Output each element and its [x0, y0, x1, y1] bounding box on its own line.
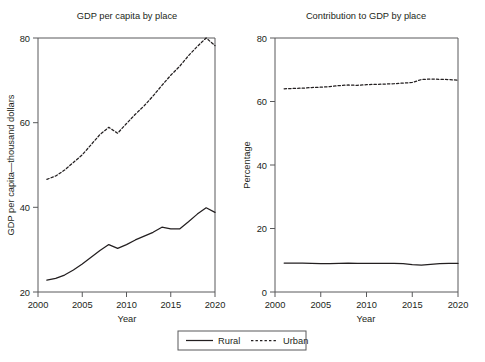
y-tick-40: 40 [20, 203, 38, 213]
legend-label-rural: Rural [218, 336, 240, 346]
series-line-urban-right [284, 79, 458, 89]
y-axis-title-left: GDP per capita—thousand dollars [6, 94, 16, 235]
x-tick-2010: 2010 [116, 292, 137, 310]
x-tick-label: 2005 [310, 300, 331, 310]
legend: Rural Urban [178, 331, 308, 350]
x-tick-label: 2010 [356, 300, 377, 310]
x-tick-2020: 2020 [448, 292, 469, 310]
y-axis-title-right: Percentage [242, 141, 252, 189]
panel-gdp-per-capita: GDP per capita by place 80 60 40 [6, 11, 225, 324]
x-tick-2000: 2000 [28, 292, 49, 310]
x-tick-label: 2010 [116, 300, 137, 310]
panel-title-right: Contribution to GDP by place [306, 11, 426, 21]
y-axis-right: 80 60 40 20 0 Percentage [242, 34, 275, 298]
plot-frame-right [275, 38, 458, 292]
y-tick-label: 20 [257, 224, 267, 234]
y-tick-0: 0 [262, 288, 275, 298]
y-tick-label: 80 [20, 34, 30, 44]
legend-label-urban: Urban [283, 336, 308, 346]
y-tick-40: 40 [257, 161, 275, 171]
y-tick-label: 60 [20, 118, 30, 128]
y-tick-label: 40 [257, 161, 267, 171]
y-tick-20: 20 [257, 224, 275, 234]
x-axis-title-left: Year [118, 314, 137, 324]
y-tick-20: 20 [20, 288, 38, 298]
x-tick-2000: 2000 [265, 292, 286, 310]
y-axis-left: 80 60 40 20 GDP per capita—thousand doll… [6, 34, 38, 298]
plot-spines-right [275, 38, 458, 292]
x-tick-label: 2020 [205, 300, 226, 310]
x-tick-label: 2020 [448, 300, 469, 310]
y-tick-label: 0 [262, 288, 267, 298]
x-tick-label: 2015 [402, 300, 423, 310]
figure-canvas: GDP per capita by place 80 60 40 [0, 0, 485, 362]
x-axis-right: 2000 2005 2010 2015 2020 Ye [265, 292, 469, 324]
plot-spines-left [38, 38, 215, 292]
y-tick-80: 80 [257, 34, 275, 44]
x-axis-title-right: Year [357, 314, 376, 324]
y-tick-label: 20 [20, 288, 30, 298]
y-tick-80: 80 [20, 34, 38, 44]
chart-svg: GDP per capita by place 80 60 40 [0, 0, 485, 362]
x-tick-2010: 2010 [356, 292, 377, 310]
x-tick-2020: 2020 [205, 292, 226, 310]
x-tick-label: 2015 [160, 300, 181, 310]
y-tick-60: 60 [257, 97, 275, 107]
x-tick-2015: 2015 [402, 292, 423, 310]
y-tick-label: 80 [257, 34, 267, 44]
series-line-rural-left [47, 208, 215, 280]
x-tick-label: 2000 [265, 300, 286, 310]
x-axis-left: 2000 2005 2010 2015 2020 Ye [28, 292, 226, 324]
x-tick-2015: 2015 [160, 292, 181, 310]
y-tick-label: 40 [20, 203, 30, 213]
y-tick-label: 60 [257, 97, 267, 107]
x-tick-2005: 2005 [72, 292, 93, 310]
plot-frame-left [38, 38, 215, 292]
x-tick-label: 2000 [28, 300, 49, 310]
panel-title-left: GDP per capita by place [77, 11, 178, 21]
series-line-rural-right [284, 263, 458, 265]
y-tick-60: 60 [20, 118, 38, 128]
x-tick-2005: 2005 [310, 292, 331, 310]
panel-contribution-to-gdp: Contribution to GDP by place 80 60 40 [242, 11, 468, 324]
x-tick-label: 2005 [72, 300, 93, 310]
series-line-urban-left [47, 38, 215, 179]
